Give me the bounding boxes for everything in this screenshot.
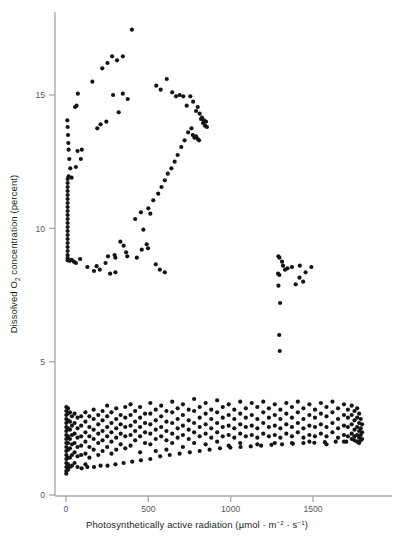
data-point	[267, 406, 271, 410]
data-point	[238, 412, 242, 416]
data-point	[344, 440, 348, 444]
data-point	[66, 193, 70, 197]
data-point	[109, 430, 113, 434]
data-point	[334, 440, 338, 444]
data-point	[76, 92, 80, 96]
data-point	[313, 425, 317, 429]
data-point	[92, 417, 96, 421]
data-point	[109, 440, 113, 444]
data-point	[313, 416, 317, 420]
data-point	[227, 433, 231, 437]
data-point	[319, 432, 323, 436]
data-point	[342, 413, 346, 417]
data-point	[105, 414, 109, 418]
data-point	[148, 422, 152, 426]
data-point	[301, 436, 305, 440]
data-point	[277, 273, 281, 277]
data-point	[192, 441, 196, 445]
x-axis-label: Photosynthetically active radiation (µmo…	[86, 519, 308, 530]
data-point	[148, 457, 152, 461]
data-point	[105, 445, 109, 449]
data-point	[313, 434, 317, 438]
data-point	[66, 177, 70, 181]
data-point	[118, 240, 122, 244]
data-point	[159, 434, 163, 438]
data-point	[154, 84, 158, 88]
data-point	[191, 100, 195, 104]
data-point	[187, 437, 191, 441]
data-point	[359, 426, 363, 430]
data-point	[79, 424, 83, 428]
data-point	[290, 434, 294, 438]
data-point	[330, 430, 334, 434]
data-point	[113, 462, 117, 466]
data-point	[164, 448, 168, 452]
data-point	[170, 400, 174, 404]
data-point	[90, 80, 94, 84]
data-point	[138, 434, 142, 438]
data-point	[227, 424, 231, 428]
data-point	[198, 434, 202, 438]
data-point	[301, 441, 305, 445]
data-point	[92, 437, 96, 441]
data-point	[133, 217, 137, 221]
data-point	[66, 125, 70, 129]
x-tick-label: 1000	[221, 504, 240, 514]
data-point	[159, 185, 163, 189]
data-point	[65, 118, 69, 122]
data-point	[204, 401, 208, 405]
data-point	[296, 421, 300, 425]
data-series	[64, 397, 364, 476]
data-point	[336, 436, 340, 440]
data-point	[68, 437, 72, 441]
data-point	[68, 420, 72, 424]
data-point	[232, 426, 236, 430]
data-point	[163, 270, 167, 274]
data-point	[78, 257, 82, 261]
data-point	[250, 401, 254, 405]
data-point	[143, 430, 147, 434]
data-point	[204, 442, 208, 446]
data-point	[313, 408, 317, 412]
data-point	[158, 454, 162, 458]
data-point	[324, 434, 328, 438]
data-point	[181, 413, 185, 417]
data-point	[123, 434, 127, 438]
data-point	[96, 441, 100, 445]
data-point	[117, 110, 121, 114]
data-point	[125, 254, 129, 258]
data-point	[355, 425, 359, 429]
x-tick-label: 0	[64, 504, 69, 514]
data-point	[330, 410, 334, 414]
data-point	[189, 126, 193, 130]
data-point	[68, 428, 72, 432]
data-point	[140, 248, 144, 252]
data-point	[346, 408, 350, 412]
data-point	[87, 434, 91, 438]
data-point	[301, 426, 305, 430]
data-point	[83, 440, 87, 444]
data-point	[350, 413, 354, 417]
data-point	[196, 105, 200, 109]
data-point	[138, 405, 142, 409]
data-point	[255, 417, 259, 421]
data-point	[115, 58, 119, 62]
data-point	[74, 165, 78, 169]
data-point	[204, 412, 208, 416]
data-point	[227, 402, 231, 406]
data-point	[158, 268, 162, 272]
data-point	[169, 166, 173, 170]
data-point	[255, 436, 259, 440]
data-point	[249, 444, 253, 448]
data-point	[307, 433, 311, 437]
data-point	[346, 416, 350, 420]
data-point	[139, 458, 143, 462]
data-point	[154, 408, 158, 412]
data-point	[72, 450, 76, 454]
data-point	[105, 61, 109, 65]
data-point	[123, 405, 127, 409]
data-point	[267, 425, 271, 429]
data-point	[198, 405, 202, 409]
data-point	[176, 406, 180, 410]
y-axis-label: Dissolved O2 concentration (percent)	[8, 175, 21, 334]
